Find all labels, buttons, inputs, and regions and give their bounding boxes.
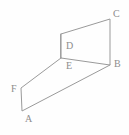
geometry-figure-canvas: C D B E F A: [0, 0, 129, 135]
figure-line-art: [0, 0, 129, 135]
vertex-label-e: E: [66, 61, 72, 71]
vertex-label-c: C: [113, 9, 120, 19]
vertex-label-b: B: [114, 59, 121, 69]
vertex-label-a: A: [25, 114, 32, 124]
vertex-label-f: F: [11, 84, 17, 94]
vertex-label-d: D: [66, 41, 73, 51]
